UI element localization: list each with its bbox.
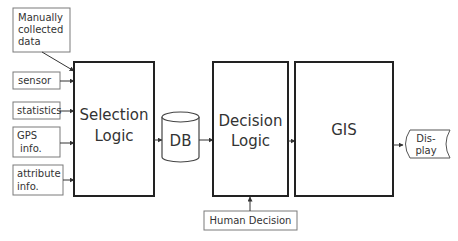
input-label-line: Manually [18, 12, 63, 23]
selection-logic-box: Selection Logic [74, 62, 154, 196]
input-gps-info: GPS info. [13, 127, 60, 157]
display-label: play [415, 145, 436, 156]
input-sensor: sensor [13, 72, 60, 89]
input-statistics: statistics [13, 102, 62, 119]
decision-logic-label: Logic [231, 132, 270, 150]
gis-box: GIS [295, 62, 393, 196]
input-attribute-info: attribute info. [13, 165, 63, 195]
decision-logic-box: Decision Logic [213, 62, 288, 196]
db-cylinder: DB [162, 112, 199, 162]
input-label-line: data [18, 36, 41, 47]
selection-logic-label: Logic [94, 127, 133, 145]
arrow-manual-to-selection [42, 52, 74, 71]
human-decision-box: Human Decision [204, 211, 297, 230]
input-label-line: info. [17, 181, 39, 192]
system-diagram: Manually collected data sensor statistic… [0, 0, 458, 241]
db-label: DB [170, 132, 192, 150]
decision-logic-label: Decision [219, 112, 283, 130]
input-label-line: collected [18, 24, 63, 35]
human-decision-label: Human Decision [210, 215, 292, 226]
display-label: Dis- [416, 133, 436, 144]
input-label: statistics [17, 105, 62, 116]
input-label-line: attribute [17, 168, 61, 179]
input-label: sensor [18, 75, 52, 86]
input-manually-collected-data: Manually collected data [13, 8, 70, 52]
gis-label: GIS [331, 121, 357, 139]
input-label-line: GPS [17, 130, 37, 141]
input-label-line: info. [20, 143, 42, 154]
selection-logic-label: Selection [79, 106, 148, 124]
display-shape: Dis- play [406, 130, 451, 158]
